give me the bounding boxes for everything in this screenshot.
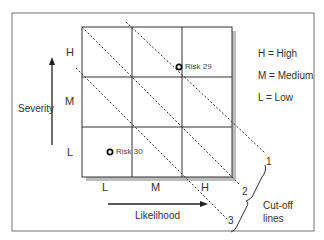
risk-label: Risk 30 bbox=[116, 148, 143, 156]
cutoff-number-3: 3 bbox=[228, 216, 234, 226]
legend-low: L = Low bbox=[258, 93, 293, 103]
risk-marker-icon bbox=[176, 64, 181, 69]
severity-level-low: L bbox=[67, 147, 73, 158]
severity-level-high: H bbox=[66, 47, 74, 58]
risk-label: Risk 29 bbox=[185, 63, 212, 71]
likelihood-axis-label: Likelihood bbox=[135, 211, 180, 221]
arrow-right-icon bbox=[200, 201, 208, 207]
cutoff-number-2: 2 bbox=[242, 187, 248, 197]
severity-axis-label: Severity bbox=[18, 104, 54, 114]
legend-high: H = High bbox=[258, 49, 297, 59]
arrow-up-icon bbox=[49, 57, 55, 65]
likelihood-level-high: H bbox=[201, 182, 209, 193]
likelihood-level-medium: M bbox=[151, 182, 160, 193]
brace bbox=[231, 165, 266, 232]
cutoff-label-line1: Cut-off bbox=[263, 201, 293, 211]
risk-marker-icon bbox=[107, 149, 112, 154]
severity-level-medium: M bbox=[65, 96, 74, 107]
likelihood-level-low: L bbox=[102, 182, 108, 193]
cutoff-number-1: 1 bbox=[266, 157, 272, 167]
cutoff-label-line2: lines bbox=[263, 214, 284, 224]
legend-medium: M = Medium bbox=[258, 71, 313, 81]
